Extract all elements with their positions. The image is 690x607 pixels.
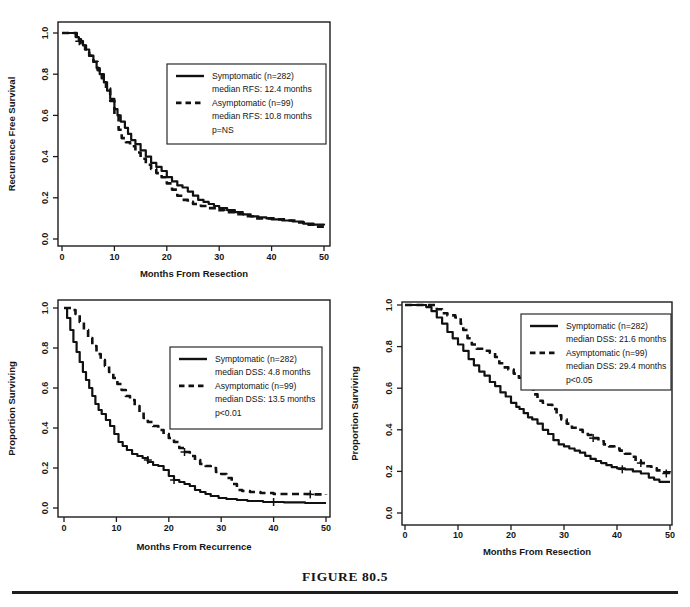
- x-tick-label: 10: [453, 530, 463, 540]
- survival-from-resection-svg: 010203040500.00.20.40.60.81.0Months From…: [345, 290, 690, 580]
- x-tick-label: 50: [665, 530, 675, 540]
- legend-row-label: median DSS: 13.5 months: [215, 394, 315, 404]
- figure-caption: FIGURE 80.5: [0, 569, 690, 585]
- chart-survival-from-recurrence: 010203040500.00.20.40.60.81.0Months From…: [0, 290, 345, 580]
- chart-survival-from-resection: 010203040500.00.20.40.60.81.0Months From…: [345, 290, 690, 580]
- x-axis-title: Months From Resection: [140, 268, 248, 279]
- x-axis-title: Months From Resection: [483, 546, 591, 557]
- x-tick-label: 30: [559, 530, 569, 540]
- x-tick-label: 20: [162, 252, 172, 262]
- legend-row-label: median RFS: 10.8 months: [212, 111, 312, 121]
- legend-row-label: median DSS: 29.4 months: [566, 361, 666, 371]
- y-axis-title: Proportion Surviving: [6, 361, 17, 456]
- x-tick-label: 30: [214, 252, 224, 262]
- legend-row-label: p<0.01: [215, 408, 242, 418]
- x-tick-label: 10: [111, 523, 121, 533]
- x-tick-label: 0: [402, 530, 407, 540]
- legend-row-label: Asymptomatic (n=99): [215, 381, 297, 391]
- figure-page: 010203040500.00.20.40.60.81.0Months From…: [0, 0, 690, 607]
- x-tick-label: 0: [59, 252, 64, 262]
- y-tick-label: 0.6: [384, 382, 394, 395]
- legend-row-label: Symptomatic (n=282): [212, 71, 294, 81]
- y-tick-label: 0.4: [40, 422, 50, 435]
- x-tick-label: 50: [321, 523, 331, 533]
- legend-row-label: Asymptomatic (n=99): [566, 348, 648, 358]
- y-tick-label: 1.0: [384, 299, 394, 312]
- y-tick-label: 0.2: [40, 192, 50, 205]
- x-tick-label: 40: [612, 530, 622, 540]
- legend-row-label: Symptomatic (n=282): [215, 354, 297, 364]
- y-tick-label: 0.2: [384, 465, 394, 478]
- y-axis-title: Recurrence Free Survival: [6, 77, 17, 192]
- y-tick-label: 0.8: [40, 68, 50, 81]
- y-tick-label: 0.0: [40, 233, 50, 246]
- legend-row-label: p<0.05: [566, 375, 593, 385]
- legend-row-label: median DSS: 4.8 months: [215, 367, 311, 377]
- y-tick-label: 0.6: [40, 382, 50, 395]
- x-tick-label: 30: [216, 523, 226, 533]
- x-tick-label: 0: [61, 523, 66, 533]
- y-tick-label: 1.0: [40, 27, 50, 40]
- x-tick-label: 10: [109, 252, 119, 262]
- x-tick-label: 50: [319, 252, 329, 262]
- y-axis-title: Proportion Surviving: [349, 366, 360, 461]
- x-axis-title: Months From Recurrence: [136, 541, 251, 552]
- y-tick-label: 0.4: [40, 150, 50, 163]
- y-tick-label: 0.8: [40, 342, 50, 355]
- chart-recurrence-free-survival: 010203040500.00.20.40.60.81.0Months From…: [0, 0, 345, 290]
- y-tick-label: 1.0: [40, 302, 50, 315]
- legend-row-label: Asymptomatic (n=99): [212, 98, 294, 108]
- y-tick-label: 0.6: [40, 109, 50, 122]
- x-tick-label: 40: [269, 523, 279, 533]
- y-tick-label: 0.8: [384, 340, 394, 353]
- legend-row-label: Symptomatic (n=282): [566, 321, 648, 331]
- legend-row-label: median RFS: 12.4 months: [212, 84, 312, 94]
- x-tick-label: 20: [506, 530, 516, 540]
- recurrence-free-survival-svg: 010203040500.00.20.40.60.81.0Months From…: [0, 0, 345, 290]
- bottom-rule: [12, 591, 678, 594]
- y-tick-label: 0.0: [40, 502, 50, 515]
- x-tick-label: 40: [267, 252, 277, 262]
- survival-from-recurrence-svg: 010203040500.00.20.40.60.81.0Months From…: [0, 290, 345, 580]
- legend-row-label: p=NS: [212, 125, 234, 135]
- x-tick-label: 20: [164, 523, 174, 533]
- legend-row-label: median DSS: 21.6 months: [566, 334, 666, 344]
- y-tick-label: 0.4: [384, 424, 394, 437]
- y-tick-label: 0.0: [384, 507, 394, 520]
- y-tick-label: 0.2: [40, 462, 50, 475]
